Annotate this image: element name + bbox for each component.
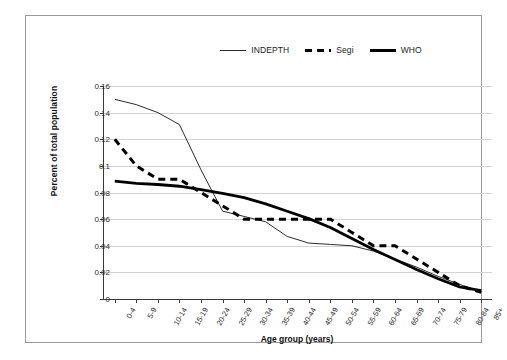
x-axis-tick-mark xyxy=(395,299,396,303)
x-axis-tick-label: 5-9 xyxy=(146,306,159,320)
x-axis-tick-mark xyxy=(158,299,159,303)
x-axis-tick-mark xyxy=(244,299,245,303)
legend-label: WHO xyxy=(401,45,422,55)
x-axis-title: Age group (years) xyxy=(103,334,491,344)
x-axis-tick-label: 15-19 xyxy=(193,306,210,327)
x-axis-tick-mark xyxy=(373,299,374,303)
x-axis-tick-label: 75-79 xyxy=(452,306,469,327)
plot-area: 00.020.040.060.080.10.120.140.16 0-45-91… xyxy=(103,86,492,300)
x-axis-tick-mark xyxy=(352,299,353,303)
x-axis-tick-mark xyxy=(201,299,202,303)
x-axis-tick-mark xyxy=(460,299,461,303)
legend-item-who: WHO xyxy=(370,45,422,55)
chart-outer-border: INDEPTHSegiWHO Percent of total populati… xyxy=(25,15,482,343)
x-axis-tick-label: 55-59 xyxy=(365,306,382,327)
x-axis-tick-label: 65-69 xyxy=(409,306,426,327)
dashed-line-swatch xyxy=(305,46,331,54)
y-axis-tick-mark xyxy=(100,299,104,300)
y-axis-title: Percent of total population xyxy=(49,51,59,231)
x-axis-tick-label: 20-24 xyxy=(215,306,232,327)
x-axis-tick-mark xyxy=(309,299,310,303)
x-axis-tick-label: 25-29 xyxy=(236,306,253,327)
x-axis-tick-label: 35-39 xyxy=(279,306,296,327)
x-axis-tick-mark xyxy=(136,299,137,303)
x-axis-tick-label: 85+ xyxy=(492,306,506,322)
x-axis-tick-label: 70-74 xyxy=(430,306,447,327)
x-axis-tick-mark xyxy=(223,299,224,303)
x-axis-tick-label: 40-44 xyxy=(301,306,318,327)
legend-item-segi: Segi xyxy=(305,45,353,55)
x-axis-tick-label: 30-34 xyxy=(258,306,275,327)
thick-line-swatch xyxy=(370,46,396,54)
x-axis-tick-mark xyxy=(115,299,116,303)
x-axis-tick-mark xyxy=(266,299,267,303)
x-axis-tick-mark xyxy=(481,299,482,303)
chart-figure: INDEPTHSegiWHO Percent of total populati… xyxy=(0,0,507,360)
series-line-who xyxy=(115,181,481,291)
x-axis-tick-label: 60-64 xyxy=(387,306,404,327)
chart-legend: INDEPTHSegiWHO xyxy=(176,41,466,59)
x-axis-tick-mark xyxy=(417,299,418,303)
x-axis-tick-label: 50-54 xyxy=(344,306,361,327)
x-axis-tick-label: 0-4 xyxy=(124,306,137,320)
legend-item-indepth: INDEPTH xyxy=(220,45,289,55)
x-axis-tick-mark xyxy=(287,299,288,303)
x-axis-tick-label: 10-14 xyxy=(171,306,188,327)
series-layer xyxy=(104,86,492,299)
legend-label: Segi xyxy=(336,45,353,55)
x-axis-tick-label: 45-49 xyxy=(322,306,339,327)
x-axis-tick-mark xyxy=(179,299,180,303)
legend-label: INDEPTH xyxy=(251,45,289,55)
x-axis-tick-mark xyxy=(330,299,331,303)
thin-line-swatch xyxy=(220,46,246,54)
x-axis-tick-mark xyxy=(438,299,439,303)
x-axis-tick-label: 80-84 xyxy=(473,306,490,327)
